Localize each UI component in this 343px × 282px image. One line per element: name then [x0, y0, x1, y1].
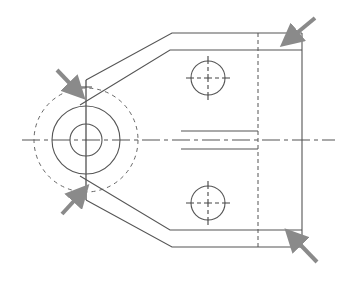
- arrow-upper-right-icon: [286, 18, 315, 42]
- arrow-lower-right-icon: [290, 234, 317, 262]
- outer-profile-bottom: [86, 200, 302, 247]
- arrow-lower-left-icon: [62, 190, 84, 214]
- arrow-upper-left-icon: [57, 70, 80, 94]
- outer-profile-top: [86, 33, 302, 80]
- technical-drawing: [0, 0, 343, 282]
